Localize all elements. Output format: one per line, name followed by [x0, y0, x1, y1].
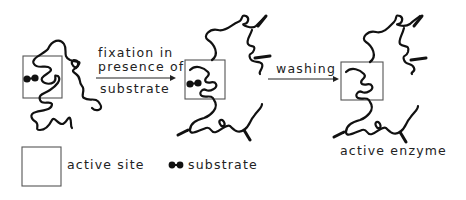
legend-active-site-box: [22, 147, 61, 186]
crosslink-arm: [178, 130, 188, 135]
protein-chain: [190, 16, 264, 133]
crosslink-arm: [258, 16, 266, 26]
crosslink-arm: [244, 130, 250, 140]
fixation-label-line-2: presence of: [98, 60, 184, 74]
active-enzyme: [334, 15, 426, 142]
crosslink-arm: [400, 132, 406, 142]
fixation-label-line-1: fixation in: [98, 46, 173, 60]
fixation-label-line-3: substrate: [100, 82, 170, 96]
enzyme-imprinting-diagram: fixation in presence of substrate washin…: [0, 0, 466, 200]
fixed-enzyme: [178, 16, 270, 140]
protein-chain-loop: [219, 120, 224, 126]
washing-arrow: [268, 76, 339, 82]
crosslink-arm: [255, 56, 270, 58]
legend-substrate-label: substrate: [188, 158, 258, 172]
crosslink-arm: [411, 58, 426, 60]
protein-chain: [31, 41, 101, 130]
washing-label: washing: [276, 62, 336, 76]
native-enzyme: [23, 41, 101, 130]
active-enzyme-label: active enzyme: [340, 144, 447, 158]
legend-active-site-label: active site: [67, 158, 145, 172]
crosslink-arm: [334, 132, 344, 137]
protein-chain-loop: [375, 122, 380, 128]
